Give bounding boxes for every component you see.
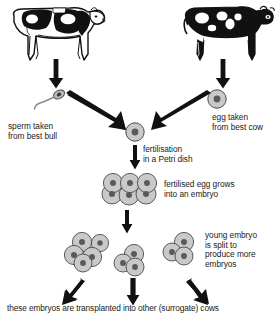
embryo-split-label: young embryo is split to produce more em… — [205, 231, 257, 269]
arrow-bull-to-sperm — [48, 59, 64, 89]
egg-label: egg taken from best cow — [212, 113, 263, 132]
arrow-fertilisation-to-embryo — [129, 145, 141, 170]
arrow-cow-to-egg — [215, 59, 231, 89]
arrow-split-to-transplant-left — [62, 278, 88, 306]
split-embryo-right — [161, 232, 197, 268]
arrow-split-to-transplant-right — [184, 278, 210, 306]
arrow-embryo-to-split — [121, 210, 133, 234]
embryo-transplant-diagram: sperm taken from best bull egg taken fro… — [0, 0, 278, 321]
arrow-split-to-transplant-middle — [126, 278, 140, 306]
fertilisation-label: fertilisation in a Petri dish — [143, 145, 193, 164]
arrow-sperm-to-fertilisation — [66, 93, 132, 135]
fertilised-egg-cell — [124, 121, 146, 143]
sperm-label: sperm taken from best bull — [8, 122, 57, 141]
split-embryo-middle — [113, 244, 147, 276]
embryo-growth-label: fertilised egg grows into an embryo — [164, 180, 234, 199]
embryo-six-cells — [101, 173, 159, 207]
sperm-cell — [34, 88, 70, 116]
split-embryo-left — [62, 232, 110, 274]
transplant-caption: these embryos are transplanted into othe… — [7, 303, 219, 313]
arrow-egg-to-fertilisation — [145, 93, 211, 135]
